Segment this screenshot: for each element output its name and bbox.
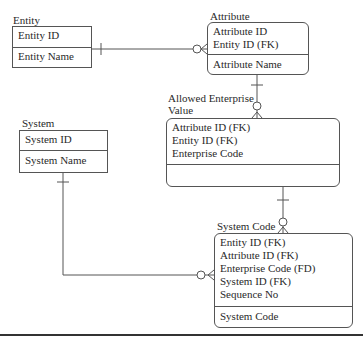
- entity-box-entity[interactable]: Entity ID Entity Name: [12, 26, 92, 68]
- key-field: Enterprise Code: [172, 147, 334, 160]
- zero-circle-icon: [279, 218, 287, 226]
- key-field: System ID (FK): [220, 275, 347, 288]
- system-code-title: System Code: [217, 220, 275, 232]
- zero-circle-icon: [193, 45, 201, 53]
- key-field: Entity ID (FK): [172, 134, 334, 147]
- key-section: System ID: [20, 131, 107, 150]
- system-title: System: [22, 117, 54, 129]
- key-field: Attribute ID (FK): [172, 121, 334, 134]
- entity-box-system-code[interactable]: Entity ID (FK) Attribute ID (FK) Enterpr…: [214, 233, 353, 328]
- rel-entity-attribute: [91, 43, 207, 55]
- entity-box-system[interactable]: System ID System Name: [19, 130, 108, 173]
- key-section: Entity ID: [13, 27, 91, 47]
- key-field: System ID: [25, 133, 102, 146]
- key-field: Entity ID (FK): [220, 236, 347, 249]
- attribute-title: Attribute: [210, 10, 250, 22]
- attribute-section: Entity Name: [13, 47, 91, 63]
- key-section: Attribute ID (FK) Entity ID (FK) Enterpr…: [167, 119, 339, 164]
- attribute-section: System Name: [20, 150, 107, 167]
- attribute-field: System Code: [220, 310, 347, 323]
- attribute-section: Attribute Name: [208, 54, 308, 71]
- entity-title: Entity: [13, 14, 40, 26]
- entity-box-attribute[interactable]: Attribute ID Entity ID (FK) Attribute Na…: [207, 22, 309, 75]
- key-field: Sequence No: [220, 288, 347, 301]
- zero-circle-icon: [197, 271, 205, 279]
- key-field: Entity ID: [18, 29, 86, 42]
- attribute-field: Attribute Name: [213, 58, 303, 71]
- rel-system-systemcode: [57, 172, 214, 280]
- key-section: Attribute ID Entity ID (FK): [208, 23, 308, 54]
- key-section: Entity ID (FK) Attribute ID (FK) Enterpr…: [215, 234, 352, 306]
- attribute-section: System Code: [215, 306, 352, 323]
- aev-title-line2: Value: [168, 104, 193, 116]
- zero-circle-icon: [253, 102, 261, 110]
- entity-box-allowed-enterprise-value[interactable]: Attribute ID (FK) Entity ID (FK) Enterpr…: [166, 118, 340, 187]
- attribute-section: [167, 164, 339, 167]
- key-field: Attribute ID (FK): [220, 249, 347, 262]
- key-field: Attribute ID: [213, 25, 303, 38]
- page-divider: [0, 334, 363, 336]
- key-field: Entity ID (FK): [213, 38, 303, 51]
- key-field: Enterprise Code (FD): [220, 262, 347, 275]
- aev-title-line1: Allowed Enterprise: [168, 92, 254, 104]
- rel-aev-systemcode: [277, 186, 289, 233]
- attribute-field: System Name: [25, 154, 102, 167]
- attribute-field: Entity Name: [18, 50, 86, 63]
